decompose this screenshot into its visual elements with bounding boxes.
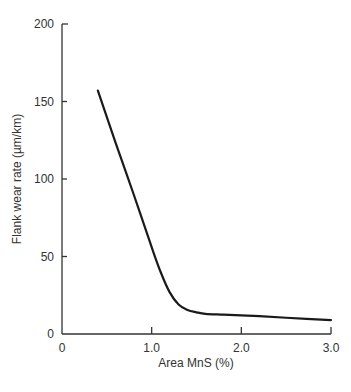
- y-tick-label: 100: [34, 172, 54, 186]
- chart: 050100150200 01.02.03.0 Area MnS (%) Fla…: [0, 0, 351, 392]
- wear-rate-curve: [98, 91, 331, 320]
- x-tick-label: 1.0: [143, 341, 160, 355]
- x-axis-label: Area MnS (%): [158, 356, 233, 370]
- y-tick-label: 200: [34, 17, 54, 31]
- y-tick-label: 50: [41, 250, 55, 264]
- x-tick-label: 2.0: [233, 341, 250, 355]
- y-tick-label: 150: [34, 95, 54, 109]
- x-tick-label: 3.0: [323, 341, 340, 355]
- x-tick-label: 0: [59, 341, 66, 355]
- y-tick-label: 0: [47, 327, 54, 341]
- y-axis-label: Flank wear rate (µm/km): [10, 114, 24, 244]
- x-ticks: 01.02.03.0: [59, 327, 340, 355]
